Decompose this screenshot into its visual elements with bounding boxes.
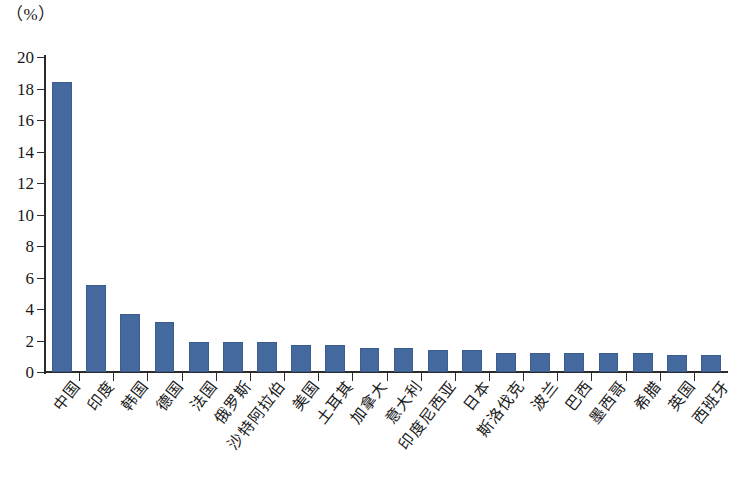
y-tick-label: 20 [4,49,34,66]
bar [155,322,175,372]
y-tick-mark [37,341,45,342]
x-category-label: 希腊 [631,378,664,414]
bar [462,350,482,372]
bar [325,345,345,372]
y-axis-unit-caption: （%） [6,6,56,23]
y-tick-mark [37,246,45,247]
bar [257,342,277,372]
x-category-label: 德国 [153,378,186,414]
y-tick-label: 12 [4,175,34,192]
y-tick-label: 18 [4,81,34,98]
plot-area [45,57,728,372]
x-category-label: 英国 [665,378,698,414]
y-tick-label: 8 [4,238,34,255]
x-axis-category-labels: 中国印度韩国德国法国俄罗斯沙特阿拉伯美国土耳其加拿大意大利印度尼西亚日本斯洛伐克… [0,378,740,482]
bar [599,353,619,372]
x-category-label: 法国 [187,378,220,414]
y-tick-mark [37,120,45,121]
y-tick-label: 2 [4,333,34,350]
y-tick-label: 10 [4,207,34,224]
bar [496,353,516,372]
bar [52,82,72,372]
y-tick-label: 16 [4,112,34,129]
y-tick-label: 6 [4,270,34,287]
y-tick-mark [37,89,45,90]
bar [667,355,687,372]
y-tick-mark [37,309,45,310]
y-tick-label: 14 [4,144,34,161]
bar [291,345,311,372]
x-category-label: 印度 [85,378,118,414]
bar [394,348,414,372]
y-tick-mark [37,372,45,373]
y-tick-mark [37,183,45,184]
bar [428,350,448,372]
bar [360,348,380,372]
bar-chart-figure: （%） 02468101214161820 中国印度韩国德国法国俄罗斯沙特阿拉伯… [0,0,740,482]
x-category-label: 韩国 [119,378,152,414]
bar [223,342,243,372]
bar [633,353,653,372]
x-category-label: 日本 [461,378,494,414]
y-tick-mark [37,215,45,216]
y-tick-mark [37,57,45,58]
y-tick-label: 4 [4,301,34,318]
bar [701,355,721,372]
x-category-label: 中国 [51,378,84,414]
bar [564,353,584,372]
bar [530,353,550,372]
bar [120,314,140,372]
y-tick-mark [37,152,45,153]
bar [189,342,209,372]
bar [86,285,106,372]
y-tick-mark [37,278,45,279]
x-category-label: 波兰 [529,378,562,414]
